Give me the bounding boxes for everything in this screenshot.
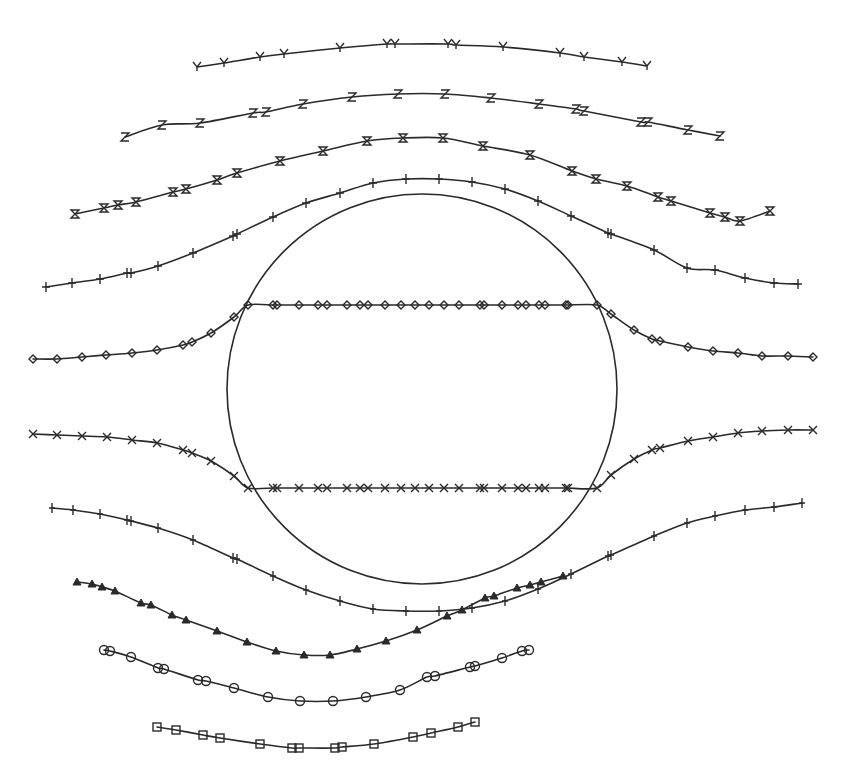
marker-circle-icon: [100, 646, 534, 706]
streamline-curve: [33, 430, 813, 489]
streamline-curve: [197, 44, 647, 67]
streamline-curve: [104, 650, 529, 701]
streamline-plot-canvas: [0, 0, 848, 780]
marker-plus-bold-icon: [42, 174, 802, 292]
streamline-plus: [49, 498, 805, 616]
streamline-hourglass: [71, 134, 774, 225]
streamline-diagram: [0, 0, 848, 780]
streamline-z: [121, 90, 724, 141]
marker-hourglass-icon: [71, 134, 774, 225]
streamline-x: [29, 426, 817, 492]
streamline-curve: [33, 304, 813, 359]
marker-z-icon: [121, 90, 724, 141]
marker-x-icon: [29, 426, 817, 492]
streamline-circle: [100, 646, 534, 706]
marker-diamond-icon: [29, 301, 817, 363]
streamline-curve: [46, 179, 798, 287]
streamline-triangle: [73, 572, 567, 658]
streamlines-group: [29, 39, 817, 752]
streamline-y: [193, 39, 651, 71]
streamline-curve: [77, 576, 563, 656]
streamline-diamond: [29, 301, 817, 363]
marker-plus-icon: [49, 498, 805, 616]
streamline-curve: [125, 94, 720, 137]
streamline-plus-heavy: [42, 174, 802, 292]
streamline-curve: [52, 503, 802, 611]
marker-triangle-icon: [73, 572, 567, 658]
cylinder-circle: [227, 194, 617, 584]
streamline-square: [153, 718, 479, 752]
